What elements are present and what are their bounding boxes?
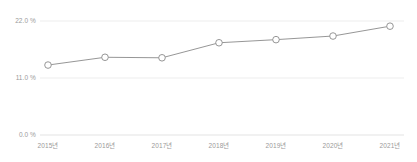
data-point-2019[interactable] (273, 36, 280, 43)
data-point-2015[interactable] (45, 62, 52, 69)
data-point-2020[interactable] (330, 33, 337, 40)
x-axis-tick-label-2019: 2019년 (254, 140, 298, 150)
data-point-2017[interactable] (159, 54, 166, 61)
x-axis-tick-label-2016: 2016년 (83, 140, 127, 150)
y-axis-tick-label-11: 11.0 % (2, 74, 36, 81)
chart-plot-area (0, 0, 417, 162)
y-axis-tick-label-0: 0.0 % (2, 131, 36, 138)
gridlines (40, 21, 404, 135)
y-axis-tick-label-22: 22.0 % (2, 17, 36, 24)
x-axis-tick-label-2020: 2020년 (311, 140, 355, 150)
x-axis-tick-label-2017: 2017년 (140, 140, 184, 150)
data-point-2021[interactable] (387, 23, 394, 30)
data-point-2016[interactable] (102, 54, 109, 61)
x-axis-tick-label-2018: 2018년 (197, 140, 241, 150)
x-axis-tick-label-2015: 2015년 (26, 140, 70, 150)
line-chart: 22.0 % 11.0 % 0.0 % 2015년 2016년 2017년 20… (0, 0, 417, 162)
data-markers (45, 23, 394, 68)
x-axis-tick-label-2021: 2021년 (368, 140, 412, 150)
data-point-2018[interactable] (216, 39, 223, 46)
